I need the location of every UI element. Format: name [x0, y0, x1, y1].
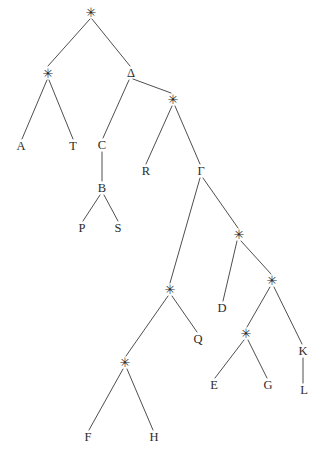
tree-node-star: ✳ [43, 67, 54, 80]
tree-edge [146, 106, 172, 164]
tree-node-g: G [263, 379, 272, 392]
tree-edge [48, 19, 90, 66]
tree-edge [203, 178, 238, 228]
tree-node-star: ✳ [234, 228, 245, 241]
tree-node-star: ✳ [120, 356, 131, 369]
tree-edge [172, 296, 197, 332]
tree-edge [241, 241, 271, 274]
tree-node-star: ✳ [267, 274, 278, 287]
tree-node-r: R [142, 165, 150, 178]
tree-edge [247, 287, 270, 327]
tree-node-b: B [98, 182, 106, 195]
tree-edge [126, 296, 168, 356]
tree-edge [89, 369, 123, 430]
tree-edge [104, 195, 118, 221]
tree-edge [175, 106, 200, 164]
tree-edge [223, 241, 237, 301]
tree-node-t: T [69, 140, 77, 153]
tree-node-s: S [115, 222, 122, 235]
tree-node-q: Q [193, 333, 202, 346]
tree-node-p: P [79, 222, 86, 235]
tree-edge [22, 80, 47, 139]
tree-node-star: ✳ [86, 6, 97, 19]
tree-edge [83, 195, 100, 221]
tree-node-γ: Γ [197, 165, 204, 178]
tree-node-star: ✳ [241, 327, 252, 340]
tree-node-δ: Δ [127, 67, 135, 80]
tree-edge [133, 79, 171, 93]
tree-edge [170, 178, 200, 283]
tree-node-a: A [16, 140, 25, 153]
tree-node-d: D [217, 302, 226, 315]
tree-node-l: L [300, 384, 308, 397]
tree-node-c: C [98, 139, 106, 152]
tree-edge [92, 19, 130, 66]
tree-node-k: K [298, 345, 307, 358]
tree-node-f: F [85, 431, 92, 444]
tree-edge [49, 80, 73, 139]
tree-edge [248, 340, 267, 378]
tree-edge [215, 340, 244, 378]
tree-edge [127, 369, 153, 430]
tree-node-star: ✳ [168, 93, 179, 106]
tree-node-e: E [210, 379, 218, 392]
tree-edge [103, 80, 129, 138]
tree-node-h: H [149, 431, 158, 444]
tree-node-star: ✳ [165, 283, 176, 296]
tree-edge [274, 287, 302, 344]
